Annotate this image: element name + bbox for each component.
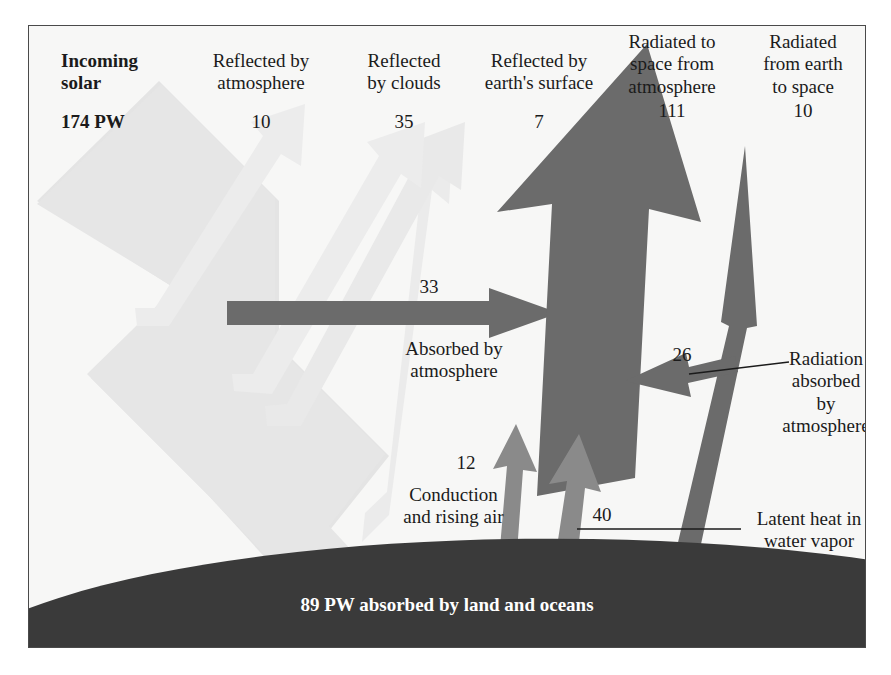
flow-label-latent-heat: Latent heat in water vapor xyxy=(729,508,866,553)
header-value-reflected-by-earths-surface: 7 xyxy=(459,111,619,133)
flow-value-conduction: 12 xyxy=(441,452,491,474)
flow-value-absorbed-by-atmosphere: 33 xyxy=(399,276,459,298)
flow-label-absorbed-by-atmosphere: Absorbed by atmosphere xyxy=(359,338,549,383)
earth-caption: 89 PW absorbed by land and oceans xyxy=(29,594,865,616)
header-value-reflected-by-atmosphere: 10 xyxy=(181,111,341,133)
header-value-reflected-by-clouds: 35 xyxy=(334,111,474,133)
header-value-radiated-from-earth-to-space: 10 xyxy=(733,100,866,122)
header-label-reflected-by-atmosphere: Reflected by atmosphere xyxy=(181,50,341,95)
flow-value-latent-heat: 40 xyxy=(577,504,627,526)
header-label-reflected-by-clouds: Reflected by clouds xyxy=(334,50,474,95)
flow-label-radiation-absorbed: Radiation absorbed by atmosphere xyxy=(771,348,866,438)
header-value-radiated-to-space-from-atmosphere: 111 xyxy=(597,100,747,122)
header-label-radiated-from-earth-to-space: Radiated from earth to space xyxy=(733,31,866,98)
energy-budget-figure: Incoming solar 174 PW Reflected by atmos… xyxy=(0,0,891,675)
header-label-reflected-by-earths-surface: Reflected by earth's surface xyxy=(459,50,619,95)
header-label-radiated-to-space-from-atmosphere: Radiated to space from atmosphere xyxy=(597,31,747,98)
figure-frame: Incoming solar 174 PW Reflected by atmos… xyxy=(28,25,866,648)
flow-label-conduction: Conduction and rising air xyxy=(361,484,546,529)
flow-value-radiation-absorbed: 26 xyxy=(657,344,707,366)
